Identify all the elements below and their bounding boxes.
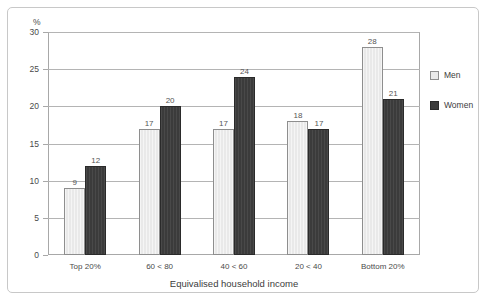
bar-women[interactable]: 24: [234, 77, 255, 255]
bar-men[interactable]: 9: [64, 188, 85, 255]
y-axis-tick-label: 5: [0, 213, 39, 223]
x-axis-tick-label: Top 20%: [70, 262, 101, 271]
legend-item-women[interactable]: Women: [430, 100, 473, 110]
bar-group: 912Top 20%: [64, 32, 106, 255]
bar-value-label: 21: [389, 89, 398, 98]
legend-item-men[interactable]: Men: [430, 70, 473, 80]
bar-value-label: 18: [293, 111, 302, 120]
y-axis-tick: [43, 106, 48, 107]
x-axis-title: Equivalised household income: [48, 278, 420, 289]
bar-women[interactable]: 17: [308, 129, 329, 255]
y-axis-tick: [43, 255, 48, 256]
y-axis-tick: [43, 69, 48, 70]
men-swatch-icon: [430, 71, 439, 80]
y-axis-unit-label: %: [33, 17, 41, 27]
x-axis-tick-label: Bottom 20%: [361, 262, 405, 271]
x-axis-tick-label: 60 < 80: [146, 262, 173, 271]
bar-value-label: 24: [240, 67, 249, 76]
bar-value-label: 20: [166, 96, 175, 105]
bar-value-label: 17: [145, 119, 154, 128]
y-axis-tick-label: 25: [0, 64, 39, 74]
legend-item-label: Women: [444, 100, 473, 110]
y-axis-tick-label: 20: [0, 101, 39, 111]
plot-wrapper: 051015202530 912Top 20%172060 < 80172440…: [48, 32, 420, 255]
y-axis-tick-label: 0: [0, 250, 39, 260]
y-axis-tick: [43, 181, 48, 182]
bar-women[interactable]: 20: [160, 106, 181, 255]
y-axis-tick-label: 15: [0, 139, 39, 149]
y-axis-tick: [43, 32, 48, 33]
bar-men[interactable]: 18: [287, 121, 308, 255]
y-axis-tick: [43, 218, 48, 219]
bar-men[interactable]: 17: [139, 129, 160, 255]
bar-value-label: 12: [91, 156, 100, 165]
chart-screenshot: % 051015202530 912Top 20%172060 < 801724…: [0, 0, 490, 303]
legend-item-label: Men: [444, 70, 461, 80]
x-axis-tick-label: 40 < 60: [221, 262, 248, 271]
bar-group: 172060 < 80: [139, 32, 181, 255]
bar-value-label: 9: [72, 178, 76, 187]
bar-men[interactable]: 17: [213, 129, 234, 255]
bar-group: 2821Bottom 20%: [362, 32, 404, 255]
bar-value-label: 17: [219, 119, 228, 128]
bar-men[interactable]: 28: [362, 47, 383, 255]
y-axis-tick: [43, 144, 48, 145]
bar-value-label: 17: [314, 119, 323, 128]
bar-group: 181720 < 40: [287, 32, 329, 255]
x-axis-tick-label: 20 < 40: [295, 262, 322, 271]
bar-group: 172440 < 60: [213, 32, 255, 255]
bar-value-label: 28: [368, 37, 377, 46]
y-axis-tick-label: 10: [0, 176, 39, 186]
chart-legend: MenWomen: [430, 70, 473, 130]
women-swatch-icon: [430, 101, 439, 110]
y-axis-tick-label: 30: [0, 27, 39, 37]
bar-women[interactable]: 21: [383, 99, 404, 255]
bar-women[interactable]: 12: [85, 166, 106, 255]
